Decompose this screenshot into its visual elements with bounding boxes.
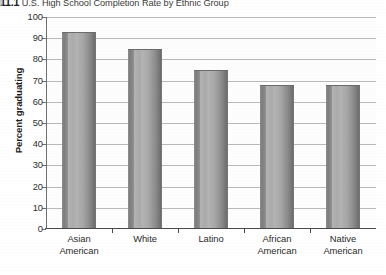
bar [260, 85, 294, 229]
bar [194, 70, 228, 229]
y-axis-tick-label: 80 [3, 54, 43, 64]
bar-slot [244, 17, 310, 229]
plot-area [46, 17, 376, 229]
bar-slot [178, 17, 244, 229]
bar-highlight [266, 86, 271, 229]
bar-slot [112, 17, 178, 229]
bar [62, 32, 96, 229]
bar-highlight [200, 71, 205, 229]
y-axis-tick-label: 50 [3, 118, 43, 128]
category-label-line: White [112, 233, 178, 245]
category-label-line: American [244, 245, 310, 257]
x-axis-category-label: AsianAmerican [46, 233, 112, 256]
y-axis-tick-label: 20 [3, 182, 43, 192]
bar-slot [46, 17, 112, 229]
bar [128, 49, 162, 229]
y-axis-tick-label: 60 [3, 97, 43, 107]
x-axis-line [45, 228, 376, 229]
category-label-line: Asian [46, 233, 112, 245]
category-label-line: Latino [178, 233, 244, 245]
category-label-line: African [244, 233, 310, 245]
bar-highlight [134, 50, 139, 229]
category-label-line: Native [310, 233, 376, 245]
category-label-line: American [310, 245, 376, 257]
y-axis-tick-label: 40 [3, 139, 43, 149]
page-edge-artifact [0, 0, 3, 6]
bar-chart: Percent graduating 010203040506070809010… [0, 0, 386, 275]
y-axis-tick-label: 10 [3, 203, 43, 213]
y-axis-line [46, 17, 47, 229]
x-axis-category-label: Latino [178, 233, 244, 245]
category-label-line: American [46, 245, 112, 257]
y-axis-title: Percent graduating [13, 46, 24, 176]
y-axis-tick-label: 0 [3, 224, 43, 234]
bars-layer [46, 17, 376, 229]
x-axis-category-label: AfricanAmerican [244, 233, 310, 256]
x-axis-category-label: NativeAmerican [310, 233, 376, 256]
bar-highlight [68, 33, 73, 229]
bar-highlight [332, 86, 337, 229]
y-axis-tick-label: 100 [3, 12, 43, 22]
y-axis-tick-label: 90 [3, 33, 43, 43]
y-axis-tick-label: 30 [3, 160, 43, 170]
x-axis-category-label: White [112, 233, 178, 245]
y-axis-tick-label: 70 [3, 76, 43, 86]
bar-slot [310, 17, 376, 229]
bar [326, 85, 360, 229]
